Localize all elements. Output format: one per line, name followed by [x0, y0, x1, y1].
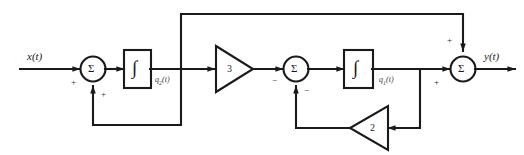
state-q2-label: q2(t)	[155, 76, 170, 86]
diagram-wiring	[0, 0, 524, 155]
output-signal-label: y(t)	[484, 51, 499, 62]
input-signal-label: x(t)	[27, 51, 42, 62]
state-q1-suffix: (t)	[386, 75, 394, 84]
summer-2-symbol: Σ	[291, 63, 297, 74]
summer-2-sign-left: −	[272, 76, 277, 85]
summer-1-sign-left: +	[71, 78, 76, 87]
summer-3-symbol: Σ	[458, 63, 464, 74]
integrator-1-box	[124, 50, 151, 88]
block-diagram-canvas: Σ Σ Σ ∫ ∫ 3 2 x(t) y(t) q2(t) q1(t) + + …	[0, 0, 524, 155]
integrator-1-symbol: ∫	[132, 58, 137, 77]
gain-2-value: 2	[370, 123, 375, 133]
summer-2-sign-bottom: −	[304, 86, 309, 95]
integrator-2-box	[344, 50, 373, 88]
summer-1-symbol: Σ	[88, 63, 94, 74]
summer-3-sign-top: +	[447, 36, 452, 45]
state-q2-suffix: (t)	[162, 75, 170, 84]
gain-3-value: 3	[227, 64, 232, 74]
gain-3-triangle	[216, 46, 253, 92]
wire-feedback-q2-to-sum3	[181, 14, 463, 69]
integrator-2-symbol: ∫	[353, 58, 358, 77]
gain-2-triangle	[350, 106, 388, 150]
summer-3-sign-left: +	[434, 78, 439, 87]
summer-1-sign-bottom: +	[101, 90, 106, 99]
state-q1-label: q1(t)	[379, 76, 394, 86]
